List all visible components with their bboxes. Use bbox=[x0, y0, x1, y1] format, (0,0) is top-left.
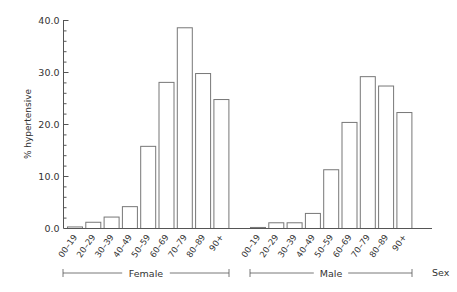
x-tick-label: 80–89 bbox=[367, 232, 390, 259]
x-axis-title: Sex bbox=[432, 267, 450, 278]
bar-female-7 bbox=[196, 74, 211, 229]
y-tick-label: 0.0 bbox=[44, 223, 59, 234]
bar-male-2 bbox=[287, 223, 302, 229]
bar-female-6 bbox=[177, 28, 192, 229]
bar-male-3 bbox=[305, 213, 320, 228]
bar-male-8 bbox=[397, 113, 412, 229]
bar-male-4 bbox=[324, 170, 339, 229]
bar-male-1 bbox=[269, 223, 284, 229]
y-tick-label: 30.0 bbox=[38, 67, 59, 78]
hypertension-bar-chart: 0.010.020.030.040.0 00–1920–2930–3940–49… bbox=[0, 0, 457, 292]
bar-female-4 bbox=[141, 146, 156, 228]
group-label-female: Female bbox=[129, 268, 164, 279]
bar-female-3 bbox=[122, 207, 137, 229]
bar-female-5 bbox=[159, 82, 174, 228]
y-axis-title: % hypertensive bbox=[23, 88, 33, 159]
bar-male-6 bbox=[360, 77, 375, 229]
x-axis: 00–1920–2930–3940–4950–5960–6970–7980–89… bbox=[56, 229, 432, 260]
bar-female-8 bbox=[214, 100, 229, 229]
bar-female-2 bbox=[104, 217, 119, 228]
bars bbox=[68, 28, 412, 229]
x-tick-label: 80–89 bbox=[184, 232, 207, 259]
y-tick-label: 20.0 bbox=[38, 119, 59, 130]
group-brackets: FemaleMale bbox=[63, 268, 412, 279]
bar-male-7 bbox=[379, 86, 394, 228]
x-tick-label: 90+ bbox=[390, 232, 408, 252]
x-tick-label: 90+ bbox=[207, 232, 225, 252]
y-tick-label: 40.0 bbox=[38, 15, 59, 26]
y-axis: 0.010.020.030.040.0 bbox=[38, 15, 68, 234]
bar-female-1 bbox=[86, 222, 101, 228]
bar-male-5 bbox=[342, 122, 357, 228]
y-tick-label: 10.0 bbox=[38, 171, 59, 182]
group-label-male: Male bbox=[320, 268, 343, 279]
